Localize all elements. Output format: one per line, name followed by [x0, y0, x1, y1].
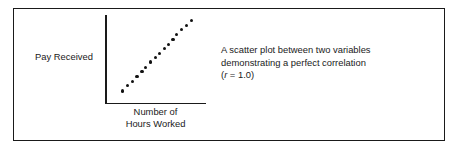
caption-line-3: (r = 1.0): [221, 69, 401, 82]
caption-line-2: demonstrating a perfect correlation: [221, 57, 401, 70]
scatter-point: [180, 28, 183, 31]
caption-line-1: A scatter plot between two variables: [221, 44, 401, 57]
x-axis-label: Number of Hours Worked: [103, 106, 208, 129]
x-axis-label-line1: Number of: [103, 106, 208, 118]
scatter-point: [131, 80, 134, 83]
scatter-point: [149, 60, 152, 63]
figure-caption: A scatter plot between two variables dem…: [221, 44, 401, 82]
scatter-point: [121, 89, 124, 92]
scatter-point: [158, 52, 161, 55]
scatter-point: [175, 33, 178, 36]
scatter-point: [140, 70, 143, 73]
scatter-point: [167, 43, 170, 46]
scatter-point: [126, 84, 129, 87]
scatter-point: [135, 75, 138, 78]
scatter-point: [185, 24, 188, 27]
scatter-point: [190, 19, 193, 22]
scatter-point: [154, 56, 157, 59]
scatter-point: [163, 47, 166, 50]
caption-r-value: = 1.0): [227, 69, 254, 80]
scatter-point: [171, 38, 174, 41]
y-axis-label: Pay Received: [26, 51, 102, 63]
scatter-point: [144, 66, 147, 69]
figure-container: Pay Received Number of Hours Worked A sc…: [0, 0, 459, 150]
x-axis-label-line2: Hours Worked: [103, 118, 208, 130]
